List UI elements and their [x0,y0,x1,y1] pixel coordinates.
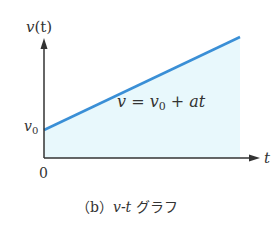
x-axis-arrow-icon [249,155,260,162]
origin-label: 0 [39,165,48,181]
figure-caption: （b）v-t グラフ [76,199,178,215]
x-axis-label: t [264,149,271,167]
y-axis-arrow-icon [41,38,48,49]
v0-label: v0 [24,118,38,136]
graph-svg: v(t) v0 0 t v = v0 + at （b）v-t グラフ [0,0,279,231]
y-axis-label: v(t) [26,18,52,36]
vt-graph-figure: v(t) v0 0 t v = v0 + at （b）v-t グラフ [0,0,279,231]
